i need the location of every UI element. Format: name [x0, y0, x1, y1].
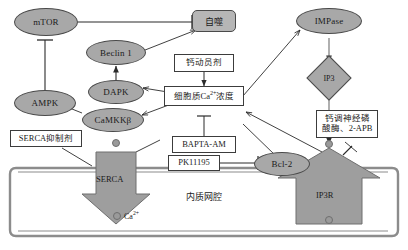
- node-ip3r-label: IP3R: [316, 190, 333, 200]
- node-autophagy-label: 自噬: [205, 15, 223, 28]
- node-bapta-am-label: BAPTA-AM: [182, 140, 226, 150]
- node-calcineurin-2apb[interactable]: 钙调神经磷 酸酶、2-APB: [316, 110, 378, 138]
- node-impase[interactable]: IMPase: [296, 8, 362, 34]
- edge-beclin1-autophagy: [140, 30, 196, 52]
- node-beclin1-label: Beclin 1: [100, 48, 132, 58]
- node-ip3[interactable]: IP3: [313, 62, 345, 94]
- pathway-diagram: mTOR AMPK Beclin 1 DAPK CaMKKβ IMPase Bc…: [0, 0, 408, 250]
- node-calcineurin-2apb-line2: 酸酶、2-APB: [322, 124, 373, 134]
- node-mtor[interactable]: mTOR: [14, 8, 78, 36]
- node-ampk[interactable]: AMPK: [14, 90, 76, 116]
- node-calcium-mobilizer-label: 钙动员剂: [186, 58, 222, 68]
- edge-ca-impase: [243, 30, 300, 96]
- node-bcl2[interactable]: Bcl-2: [254, 152, 310, 176]
- node-bapta-am[interactable]: BAPTA-AM: [172, 136, 236, 153]
- node-calcium-mobilizer[interactable]: 钙动员剂: [174, 54, 234, 72]
- node-ip3-label: IP3: [313, 62, 345, 94]
- node-camkkb[interactable]: CaMKKβ: [82, 108, 144, 132]
- node-beclin1[interactable]: Beclin 1: [86, 40, 146, 65]
- node-cytosolic-calcium[interactable]: 细胞质Ca2+浓度: [164, 86, 244, 106]
- node-serca-inhibitor-label: SERCA抑制剂: [19, 134, 73, 144]
- node-mtor-label: mTOR: [33, 17, 59, 27]
- calcium-ion-dot-lumen-ip3r: [325, 216, 333, 224]
- node-autophagy[interactable]: 自噬: [192, 10, 236, 32]
- node-serca-inhibitor[interactable]: SERCA抑制剂: [10, 130, 82, 147]
- node-dapk-label: DAPK: [103, 87, 128, 97]
- calcium-ion-label: Ca2+: [124, 210, 139, 221]
- node-pk11195[interactable]: PK11195: [168, 155, 220, 171]
- edge-ca-serca: [136, 140, 160, 152]
- edge-serca-inhibitor: [62, 148, 92, 166]
- calcium-ion-dot-cytosol-ip3r: [325, 140, 333, 148]
- calcium-ion-dot-lumen-serca: [113, 212, 121, 220]
- er-lumen-label: 内质网腔: [186, 190, 222, 203]
- node-bcl2-label: Bcl-2: [272, 159, 293, 169]
- edge-ip3r-ca: [246, 112, 322, 152]
- edge-bcl2-link: [243, 124, 276, 156]
- node-ampk-label: AMPK: [32, 98, 59, 108]
- calcium-ion-dot-cytosol-serca: [112, 139, 120, 147]
- node-dapk[interactable]: DAPK: [88, 80, 144, 104]
- node-impase-label: IMPase: [315, 16, 344, 26]
- edge-calcineurin-ip3r-blunt: [343, 146, 352, 155]
- node-camkkb-label: CaMKKβ: [95, 115, 132, 125]
- node-pk11195-label: PK11195: [178, 158, 210, 168]
- node-cytosolic-calcium-label: 细胞质Ca2+浓度: [174, 90, 235, 101]
- node-serca-label: SERCA: [96, 174, 123, 184]
